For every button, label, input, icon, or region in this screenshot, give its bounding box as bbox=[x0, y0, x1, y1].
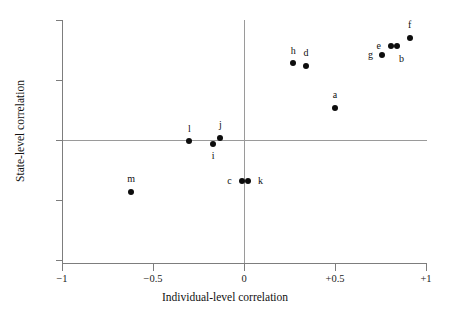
x-axis-tick-label: 0 bbox=[241, 274, 246, 285]
x-axis-tick bbox=[153, 264, 154, 271]
data-point bbox=[210, 141, 216, 147]
plot-area: abcdefghijklm bbox=[62, 20, 426, 260]
data-point bbox=[407, 35, 413, 41]
y-axis-title: State-level correlation bbox=[14, 41, 26, 221]
data-point bbox=[217, 135, 223, 141]
x-axis-tick bbox=[335, 264, 336, 271]
data-point-label: i bbox=[212, 151, 215, 161]
data-point-label: a bbox=[333, 90, 337, 100]
data-point bbox=[186, 138, 192, 144]
x-axis-tick bbox=[244, 264, 245, 271]
data-point bbox=[290, 60, 296, 66]
y-axis-tick bbox=[56, 260, 63, 261]
x-axis-tick-label: +1 bbox=[420, 274, 431, 285]
x-axis-tick bbox=[426, 264, 427, 271]
data-point-label: g bbox=[368, 50, 373, 60]
data-point-label: c bbox=[227, 176, 231, 186]
data-point-label: k bbox=[258, 176, 263, 186]
data-point bbox=[303, 63, 309, 69]
data-point-label: m bbox=[127, 174, 135, 184]
x-axis-tick-label: −1 bbox=[56, 274, 67, 285]
data-point-label: h bbox=[291, 46, 296, 56]
x-axis-tick-label: −0.5 bbox=[143, 274, 162, 285]
x-axis-tick-label: +0.5 bbox=[325, 274, 344, 285]
data-point bbox=[394, 43, 400, 49]
x-axis-title: Individual-level correlation bbox=[0, 291, 450, 303]
data-point bbox=[379, 52, 385, 58]
data-point-label: d bbox=[303, 48, 308, 58]
data-point-label: l bbox=[188, 124, 191, 134]
data-point-label: e bbox=[376, 41, 380, 51]
data-point-label: j bbox=[219, 120, 222, 130]
data-point bbox=[245, 178, 251, 184]
data-point bbox=[388, 43, 394, 49]
data-point bbox=[128, 189, 134, 195]
data-point-label: f bbox=[408, 20, 411, 30]
scatter-plot-figure: −1−0.50+0.5+1 −1−0.50+0.5+1 abcdefghijkl… bbox=[0, 0, 450, 312]
data-point-label: b bbox=[399, 54, 404, 64]
data-point bbox=[332, 105, 338, 111]
x-axis-tick bbox=[62, 264, 63, 271]
